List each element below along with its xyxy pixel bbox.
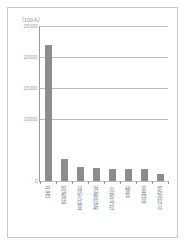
x-tick-mark bbox=[56, 181, 57, 184]
bar bbox=[93, 168, 100, 181]
x-tick-mark bbox=[152, 181, 153, 184]
unit-caption: （100人） bbox=[19, 16, 43, 23]
x-tick-mark bbox=[88, 181, 89, 184]
x-tick-mark bbox=[40, 181, 41, 184]
x-tick-label: 洪都拉斯 bbox=[93, 186, 100, 210]
gridline bbox=[40, 57, 168, 58]
x-tick-mark bbox=[136, 181, 137, 184]
gridline bbox=[40, 26, 168, 27]
x-tick-label: 巴西 bbox=[45, 186, 52, 198]
y-tick-label: 20000 bbox=[24, 54, 38, 60]
bar bbox=[77, 167, 84, 181]
x-tick-label: 瓜地马拉 bbox=[109, 186, 116, 210]
bar bbox=[157, 174, 164, 181]
x-tick-label: 秘鲁 bbox=[125, 186, 132, 198]
gridline bbox=[40, 119, 168, 120]
x-tick-label: 阿根廷 bbox=[61, 186, 68, 204]
bar bbox=[141, 169, 148, 181]
x-tick-label: 尼加拉瓜 bbox=[157, 186, 164, 210]
x-tick-mark bbox=[168, 181, 169, 184]
x-tick-mark bbox=[120, 181, 121, 184]
gridline bbox=[40, 88, 168, 89]
bar bbox=[61, 159, 68, 181]
chart-figure: （100人） 010000150002000025000 巴西阿根廷哥伦比亚洪都… bbox=[7, 7, 178, 238]
bar bbox=[45, 45, 52, 181]
x-tick-mark bbox=[72, 181, 73, 184]
x-tick-mark bbox=[104, 181, 105, 184]
x-tick-label: 墨西哥 bbox=[141, 186, 148, 204]
plot-area: 010000150002000025000 巴西阿根廷哥伦比亚洪都拉斯瓜地马拉秘… bbox=[40, 26, 168, 181]
y-tick-label: 10000 bbox=[24, 116, 38, 122]
y-tick-label: 25000 bbox=[24, 23, 38, 29]
bar bbox=[109, 169, 116, 181]
y-tick-label: 0 bbox=[35, 178, 38, 184]
y-tick-label: 15000 bbox=[24, 85, 38, 91]
x-tick-label: 哥伦比亚 bbox=[77, 186, 84, 210]
y-axis-line bbox=[39, 26, 40, 182]
bar bbox=[125, 169, 132, 181]
